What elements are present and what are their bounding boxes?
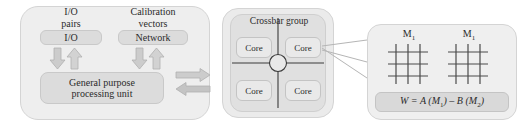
gpu-box-label: General purposeprocessing unit [69, 77, 135, 99]
core-label: Core [294, 86, 312, 96]
core-box-bottom-right[interactable]: Core [285, 80, 321, 101]
core-box-top-left[interactable]: Core [236, 37, 272, 58]
calibration-vectors-caption: Calibrationvectors [110, 6, 196, 29]
weight-equation-box: W = A (M1) – B (M2) [375, 92, 509, 112]
core-label: Core [245, 86, 263, 96]
core-box-top-right[interactable]: Core [285, 37, 321, 58]
matrix-label-m2: M1 [454, 28, 484, 42]
core-box-bottom-left[interactable]: Core [236, 80, 272, 101]
weight-equation-text: W = A (M1) – B (M2) [400, 95, 484, 109]
io-pairs-caption: I/Opairs [36, 6, 106, 29]
core-label: Core [245, 43, 263, 53]
core-label: Core [294, 43, 312, 53]
crossbar-group-title: Crossbar group [230, 16, 328, 27]
diagram-canvas: I/Opairs Calibrationvectors I/O Network … [0, 0, 525, 134]
io-box[interactable]: I/O [40, 30, 102, 45]
matrix-label-m1: M1 [394, 28, 424, 42]
network-box[interactable]: Network [118, 30, 188, 45]
network-box-label: Network [136, 32, 171, 43]
io-box-label: I/O [64, 32, 77, 43]
general-purpose-processing-unit-box[interactable]: General purposeprocessing unit [40, 72, 164, 104]
